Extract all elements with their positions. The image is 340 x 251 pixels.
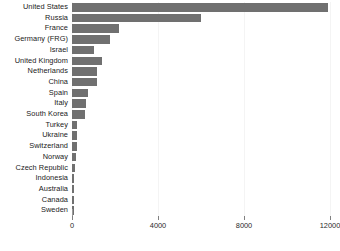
bar[interactable] xyxy=(72,164,75,173)
category-label: Norway xyxy=(0,152,68,163)
x-axis-tick xyxy=(158,216,159,220)
category-label: Spain xyxy=(0,88,68,99)
category-label: Turkey xyxy=(0,120,68,131)
category-label: Sweden xyxy=(0,205,68,216)
bar[interactable] xyxy=(72,121,77,130)
gridline xyxy=(330,2,331,216)
category-axis-labels: United StatesRussiaFranceGermany (FRG)Is… xyxy=(0,2,68,216)
bar[interactable] xyxy=(72,99,86,108)
category-label: Canada xyxy=(0,195,68,206)
bar[interactable] xyxy=(72,153,76,162)
category-label: Czech Republic xyxy=(0,163,68,174)
category-label: France xyxy=(0,23,68,34)
plot-area xyxy=(72,2,330,216)
category-label: Italy xyxy=(0,98,68,109)
x-axis-tick-label: 8000 xyxy=(236,221,252,231)
category-label: South Korea xyxy=(0,109,68,120)
bar[interactable] xyxy=(72,3,328,12)
category-label: China xyxy=(0,77,68,88)
bar-series xyxy=(72,2,330,216)
bar[interactable] xyxy=(72,185,74,194)
x-axis-tick xyxy=(72,216,73,220)
bar[interactable] xyxy=(72,142,77,151)
bar[interactable] xyxy=(72,24,119,33)
x-axis-tick-label: 0 xyxy=(70,221,74,231)
bar[interactable] xyxy=(72,110,85,119)
bar[interactable] xyxy=(72,46,94,55)
category-label: Ukraine xyxy=(0,130,68,141)
x-axis-tick xyxy=(330,216,331,220)
x-axis-tick xyxy=(244,216,245,220)
category-label: Netherlands xyxy=(0,66,68,77)
bar[interactable] xyxy=(72,57,102,66)
category-label: Israel xyxy=(0,45,68,56)
category-label: Australia xyxy=(0,184,68,195)
category-label: Germany (FRG) xyxy=(0,34,68,45)
bar[interactable] xyxy=(72,131,77,140)
x-axis-tick-label: 4000 xyxy=(150,221,166,231)
bar[interactable] xyxy=(72,174,74,183)
bar[interactable] xyxy=(72,196,74,205)
category-label: Russia xyxy=(0,13,68,24)
value-axis: 04000800012000 xyxy=(72,216,330,246)
bar[interactable] xyxy=(72,67,97,76)
category-label: United States xyxy=(0,2,68,13)
x-axis-tick-label: 12000 xyxy=(320,221,340,231)
category-label: United Kingdom xyxy=(0,56,68,67)
category-label: Switzerland xyxy=(0,141,68,152)
bar[interactable] xyxy=(72,35,110,44)
bar[interactable] xyxy=(72,14,201,23)
bar[interactable] xyxy=(72,89,88,98)
category-label: Indonesia xyxy=(0,173,68,184)
bar[interactable] xyxy=(72,78,97,87)
